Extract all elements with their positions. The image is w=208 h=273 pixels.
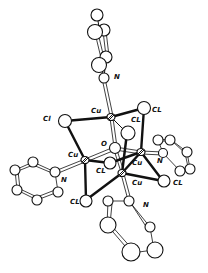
label-cl-bottom-left: CL bbox=[70, 198, 80, 206]
label-n-left: N bbox=[61, 176, 67, 184]
label-cl-center: CL bbox=[96, 167, 106, 175]
label-cu-bottom: Cu bbox=[132, 179, 142, 187]
cl-atom-center bbox=[104, 157, 116, 169]
label-cl-bottom-right: CL bbox=[173, 179, 183, 187]
cu-atom-top bbox=[107, 114, 115, 121]
label-cu-right: Cu bbox=[132, 159, 142, 167]
label-cl-top-right: CL bbox=[152, 106, 162, 114]
cu-atom-right bbox=[137, 149, 145, 156]
label-n-right: N bbox=[157, 157, 163, 165]
o-atom-center bbox=[110, 143, 121, 154]
label-o-center: O bbox=[101, 140, 107, 148]
pyridine-ring-bottom bbox=[100, 174, 163, 261]
cl-atom-bottom-left bbox=[80, 195, 92, 207]
n-atom-top bbox=[99, 73, 109, 83]
label-cu-left: Cu bbox=[68, 151, 78, 159]
label-n-top: N bbox=[114, 73, 120, 81]
cl-atom-top-right bbox=[138, 102, 151, 115]
pyridine-ring-right bbox=[141, 135, 195, 176]
cl-atom-top-mid bbox=[121, 126, 135, 140]
label-cu-top: Cu bbox=[91, 107, 101, 115]
label-n-bottom: N bbox=[143, 201, 149, 209]
n-atom-left bbox=[50, 167, 60, 177]
n-atom-bottom bbox=[124, 196, 134, 206]
cl-atom-left bbox=[59, 115, 72, 128]
pyridine-ring-top bbox=[88, 9, 113, 83]
cu-atom-bottom bbox=[118, 170, 126, 177]
cu-atom-left bbox=[81, 157, 89, 164]
label-cl-left: Cl bbox=[43, 115, 51, 123]
molecular-structure-figure: N bbox=[0, 0, 208, 273]
label-cl-top-mid: CL bbox=[131, 116, 141, 124]
cl-atom-bottom-right bbox=[158, 175, 170, 187]
cluster-diagram: N bbox=[0, 0, 208, 273]
